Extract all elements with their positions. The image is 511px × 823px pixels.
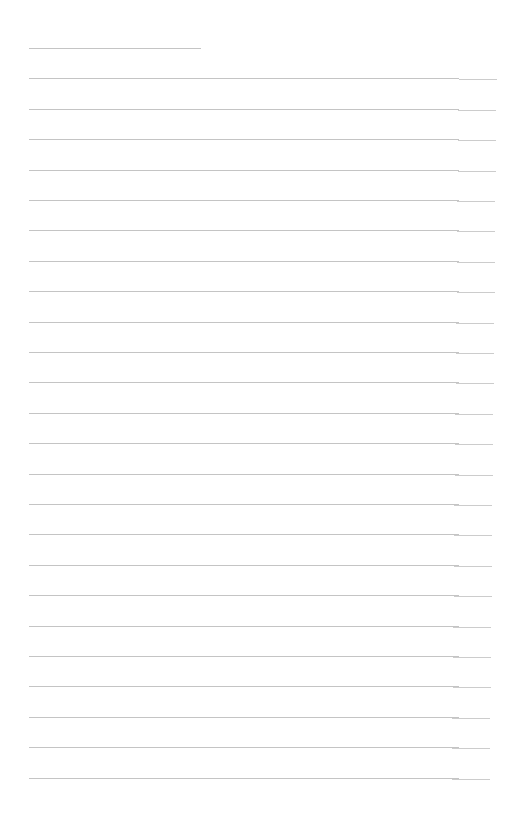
ruled-line (29, 170, 459, 171)
ruled-line-tail (457, 201, 495, 202)
ruled-line (29, 382, 459, 383)
ruled-line (29, 474, 459, 475)
ruled-line-tail (455, 475, 493, 476)
ruled-line (29, 443, 459, 444)
ruled-line-tail (454, 505, 492, 506)
ruled-line (29, 565, 459, 566)
ruled-line-tail (453, 627, 491, 628)
ruled-line (29, 504, 459, 505)
ruled-line-tail (458, 171, 496, 172)
ruled-line-tail (456, 383, 494, 384)
ruled-line-tail (457, 292, 495, 293)
ruled-line-tail (454, 596, 492, 597)
ruled-line-tail (452, 779, 490, 780)
ruled-line (29, 48, 201, 49)
ruled-line-tail (453, 657, 491, 658)
ruled-line-tail (454, 566, 492, 567)
ruled-line (29, 139, 459, 140)
ruled-line (29, 352, 459, 353)
ruled-line (29, 291, 459, 292)
ruled-line (29, 322, 459, 323)
ruled-line-tail (458, 110, 496, 111)
ruled-line (29, 717, 459, 718)
ruled-line-tail (454, 535, 492, 536)
ruled-line-tail (455, 414, 493, 415)
ruled-line-tail (456, 323, 494, 324)
ruled-line (29, 747, 459, 748)
ruled-line-tail (459, 79, 497, 80)
ruled-line (29, 686, 459, 687)
ruled-line (29, 595, 459, 596)
ruled-line-tail (457, 231, 495, 232)
ruled-line (29, 109, 459, 110)
ruled-line-tail (453, 687, 491, 688)
ruled-line (29, 200, 459, 201)
ruled-line (29, 261, 459, 262)
ruled-line (29, 656, 459, 657)
ruled-line-tail (456, 353, 494, 354)
ruled-line (29, 626, 459, 627)
ruled-line-tail (455, 444, 493, 445)
ruled-line (29, 78, 459, 79)
ruled-line-tail (457, 262, 495, 263)
ruled-line-tail (452, 718, 490, 719)
ruled-line-tail (452, 748, 490, 749)
ruled-line (29, 230, 459, 231)
ruled-line (29, 413, 459, 414)
ruled-line-tail (458, 140, 496, 141)
ruled-line (29, 534, 459, 535)
ruled-line (29, 778, 459, 779)
